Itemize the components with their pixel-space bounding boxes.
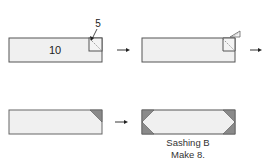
step-3-rectangle-group xyxy=(9,110,102,134)
step-2-folded-corner xyxy=(223,38,235,51)
step-2-trimmed-triangle xyxy=(230,31,240,37)
step-4-rectangle xyxy=(142,110,235,134)
step-1-square-size-label: 5 xyxy=(95,18,101,29)
step-1-center-label: 10 xyxy=(49,44,61,56)
step-1-rectangle-group: 10 5 xyxy=(9,18,102,62)
caption-sashing-b: Sashing B Make 8. xyxy=(138,137,238,161)
step-4-sashing-b-group xyxy=(142,110,235,134)
step-3-rectangle xyxy=(9,110,102,134)
arrow-2 xyxy=(250,48,262,52)
caption-line-2: Make 8. xyxy=(138,149,238,161)
arrow-3 xyxy=(115,120,128,124)
step-2-rectangle-group xyxy=(142,31,240,62)
step-2-rectangle xyxy=(142,38,235,62)
arrow-1 xyxy=(117,48,130,52)
caption-line-1: Sashing B xyxy=(138,137,238,149)
